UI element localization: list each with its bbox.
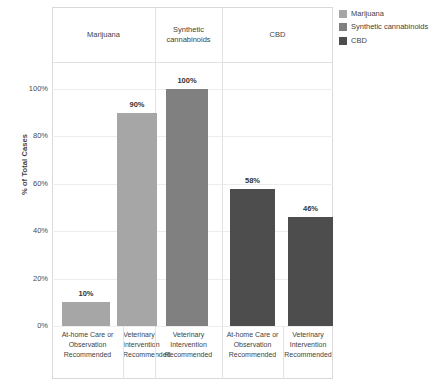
legend-item-cbd[interactable]: CBD <box>339 36 443 45</box>
x-separator-4 <box>283 326 284 379</box>
x-cat-3-line1: Veterinary <box>155 330 222 340</box>
group-separator-2 <box>222 7 223 326</box>
legend: Marijuana Synthetic cannabinoids CBD <box>339 9 443 50</box>
legend-item-synthetic-cannabinoids[interactable]: Synthetic cannabinoids <box>339 23 443 32</box>
legend-swatch-cbd <box>339 37 347 45</box>
group-label-marijuana: Marijuana <box>52 7 155 63</box>
legend-swatch-synthetic-cannabinoids <box>339 23 347 31</box>
legend-label-marijuana: Marijuana <box>351 10 384 18</box>
x-cat-1-line2: Observation <box>52 340 123 350</box>
x-cat-5-line1: Veterinary <box>283 330 333 340</box>
x-separator-3 <box>222 326 223 379</box>
x-separator-2 <box>155 326 156 379</box>
x-cat-1-line1: At-home Care or <box>52 330 123 340</box>
x-cat-4-line3: Recommended <box>222 350 283 360</box>
x-category-label-2: Veterinary Intervention Recommended <box>123 330 155 360</box>
x-cat-3-line2: Intervention <box>155 340 222 350</box>
y-axis-tick-labels: 100% 80% 60% 40% 20% 0% <box>8 0 48 387</box>
x-category-label-3: Veterinary Intervention Recommended <box>155 330 222 360</box>
y-tick-100: 100% <box>14 85 48 93</box>
bar-synthetic-cannabinoids-veterinary-intervention[interactable] <box>166 89 208 326</box>
x-category-label-5: Veterinary Intervention Recommended <box>283 330 333 360</box>
bar-marijuana-at-home-care[interactable] <box>62 302 110 326</box>
x-cat-5-line2: Intervention <box>283 340 333 350</box>
bar-label-58: 58% <box>230 177 275 185</box>
bar-label-100: 100% <box>166 77 208 85</box>
y-tick-20: 20% <box>14 275 48 283</box>
group-label-synthetic-cannabinoids: Synthetic cannabinoids <box>155 7 222 63</box>
y-tick-40: 40% <box>14 227 48 235</box>
y-tick-0: 0% <box>14 322 48 330</box>
bar-cbd-veterinary-intervention[interactable] <box>288 217 333 326</box>
legend-swatch-marijuana <box>339 10 347 18</box>
x-cat-3-line3: Recommended <box>155 350 222 360</box>
x-cat-2-line3: Recommended <box>123 350 155 360</box>
x-cat-5-line3: Recommended <box>283 350 333 360</box>
legend-item-marijuana[interactable]: Marijuana <box>339 9 443 18</box>
y-tick-60: 60% <box>14 180 48 188</box>
x-category-label-1: At-home Care or Observation Recommended <box>52 330 123 360</box>
group-header-band: Marijuana Synthetic cannabinoids CBD <box>52 7 333 63</box>
x-cat-2-line1: Veterinary <box>123 330 155 340</box>
x-cat-4-line2: Observation <box>222 340 283 350</box>
x-cat-2-line2: Intervention <box>123 340 155 350</box>
legend-label-synthetic-cannabinoids: Synthetic cannabinoids <box>351 23 428 31</box>
group-label-cbd: CBD <box>222 7 333 63</box>
gridline-0-baseline <box>52 326 333 327</box>
legend-label-cbd: CBD <box>351 37 367 45</box>
bar-marijuana-veterinary-intervention[interactable] <box>117 113 157 326</box>
bar-chart: % of Total Cases 100% 80% 60% 40% 20% 0%… <box>0 0 443 387</box>
bar-label-46: 46% <box>288 205 333 213</box>
x-cat-1-line3: Recommended <box>52 350 123 360</box>
x-cat-4-line1: At-home Care or <box>222 330 283 340</box>
bar-cbd-at-home-care[interactable] <box>230 189 275 326</box>
x-separator-1 <box>123 326 124 379</box>
y-tick-80: 80% <box>14 132 48 140</box>
x-category-label-4: At-home Care or Observation Recommended <box>222 330 283 360</box>
bar-label-90: 90% <box>117 101 157 109</box>
bar-label-10: 10% <box>62 290 110 298</box>
